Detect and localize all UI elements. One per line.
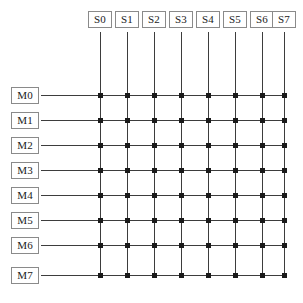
crosspoint-m4-s4 [206, 193, 211, 198]
crosspoint-m0-s7 [282, 93, 287, 98]
crosspoint-m3-s6 [260, 168, 265, 173]
crosspoint-m1-s3 [179, 118, 184, 123]
crosspoint-m7-s5 [233, 273, 238, 278]
crosspoint-m7-s0 [98, 273, 103, 278]
crosspoint-m4-s1 [125, 193, 130, 198]
crosspoint-m6-s6 [260, 243, 265, 248]
crosspoint-m2-s1 [125, 143, 130, 148]
master-label-text: M6 [17, 240, 33, 251]
crosspoint-m5-s1 [125, 218, 130, 223]
crosspoint-m3-s4 [206, 168, 211, 173]
master-label-m5: M5 [11, 212, 39, 229]
crosspoint-m1-s2 [152, 118, 157, 123]
slave-line-s6 [262, 32, 263, 275]
master-line-m6 [41, 245, 284, 246]
slave-line-s3 [181, 32, 182, 275]
crosspoint-m4-s5 [233, 193, 238, 198]
master-line-m7 [41, 275, 284, 276]
crosspoint-m0-s3 [179, 93, 184, 98]
slave-label-text: S7 [278, 14, 290, 25]
slave-line-s1 [127, 32, 128, 275]
crosspoint-m7-s4 [206, 273, 211, 278]
crosspoint-m2-s0 [98, 143, 103, 148]
master-label-m1: M1 [11, 112, 39, 129]
crosspoint-m2-s5 [233, 143, 238, 148]
master-label-text: M3 [17, 165, 33, 176]
crosspoint-m3-s2 [152, 168, 157, 173]
crosspoint-m5-s5 [233, 218, 238, 223]
master-label-text: M5 [17, 215, 33, 226]
master-line-m2 [41, 145, 284, 146]
slave-label-s2: S2 [142, 11, 166, 28]
crosspoint-m1-s4 [206, 118, 211, 123]
crosspoint-m4-s6 [260, 193, 265, 198]
slave-label-text: S5 [229, 14, 241, 25]
master-label-text: M1 [17, 115, 33, 126]
slave-line-s7 [284, 32, 285, 275]
master-line-m1 [41, 120, 284, 121]
crosspoint-m6-s4 [206, 243, 211, 248]
crosspoint-m1-s5 [233, 118, 238, 123]
crosspoint-m5-s3 [179, 218, 184, 223]
crosspoint-m3-s0 [98, 168, 103, 173]
crosspoint-m1-s7 [282, 118, 287, 123]
crosspoint-m0-s5 [233, 93, 238, 98]
crosspoint-m3-s5 [233, 168, 238, 173]
master-label-m3: M3 [11, 162, 39, 179]
slave-line-s0 [100, 32, 101, 275]
master-label-m0: M0 [11, 87, 39, 104]
crosspoint-m2-s7 [282, 143, 287, 148]
master-line-m4 [41, 195, 284, 196]
crosspoint-m6-s0 [98, 243, 103, 248]
crosspoint-m1-s6 [260, 118, 265, 123]
master-label-m7: M7 [11, 267, 39, 284]
master-line-m0 [41, 95, 284, 96]
crosspoint-m1-s0 [98, 118, 103, 123]
crosspoint-m0-s1 [125, 93, 130, 98]
slave-label-s6: S6 [250, 11, 274, 28]
slave-label-text: S3 [175, 14, 187, 25]
crosspoint-m5-s6 [260, 218, 265, 223]
crosspoint-m7-s3 [179, 273, 184, 278]
crosspoint-m2-s2 [152, 143, 157, 148]
crosspoint-m4-s0 [98, 193, 103, 198]
slave-label-text: S1 [121, 14, 133, 25]
master-label-text: M0 [17, 90, 33, 101]
crosspoint-m4-s7 [282, 193, 287, 198]
slave-label-text: S0 [94, 14, 106, 25]
master-line-m5 [41, 220, 284, 221]
crosspoint-m7-s1 [125, 273, 130, 278]
master-label-text: M7 [17, 270, 33, 281]
slave-label-s4: S4 [196, 11, 220, 28]
crosspoint-m6-s5 [233, 243, 238, 248]
crosspoint-m0-s0 [98, 93, 103, 98]
master-line-m3 [41, 170, 284, 171]
master-label-m6: M6 [11, 237, 39, 254]
crosspoint-m7-s6 [260, 273, 265, 278]
crosspoint-m5-s7 [282, 218, 287, 223]
crosspoint-m3-s3 [179, 168, 184, 173]
crosspoint-m6-s7 [282, 243, 287, 248]
master-label-text: M2 [17, 140, 33, 151]
crosspoint-m4-s2 [152, 193, 157, 198]
slave-line-s5 [235, 32, 236, 275]
crosspoint-m1-s1 [125, 118, 130, 123]
slave-line-s4 [208, 32, 209, 275]
crosspoint-m6-s1 [125, 243, 130, 248]
slave-label-s5: S5 [223, 11, 247, 28]
master-label-text: M4 [17, 190, 33, 201]
crosspoint-m2-s4 [206, 143, 211, 148]
crosspoint-m2-s3 [179, 143, 184, 148]
crosspoint-m3-s7 [282, 168, 287, 173]
crosspoint-m5-s0 [98, 218, 103, 223]
crosspoint-m3-s1 [125, 168, 130, 173]
crosspoint-m6-s3 [179, 243, 184, 248]
slave-label-text: S2 [148, 14, 160, 25]
crosspoint-m0-s4 [206, 93, 211, 98]
slave-label-s1: S1 [115, 11, 139, 28]
crosspoint-m4-s3 [179, 193, 184, 198]
crosspoint-m5-s2 [152, 218, 157, 223]
master-label-m2: M2 [11, 137, 39, 154]
crosspoint-m7-s2 [152, 273, 157, 278]
slave-line-s2 [154, 32, 155, 275]
